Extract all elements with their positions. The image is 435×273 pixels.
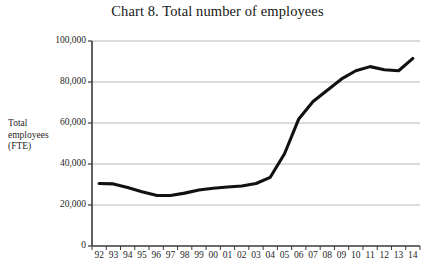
- y-tick-label: 20,000: [30, 199, 86, 209]
- x-tick-label: 14: [404, 250, 422, 260]
- y-tick-label: 80,000: [30, 76, 86, 86]
- chart-page: Chart 8. Total number of employees Total…: [0, 0, 435, 273]
- y-tick-label: 60,000: [30, 117, 86, 127]
- y-tick-label: 0: [30, 240, 86, 250]
- employees-data-line: [99, 58, 413, 195]
- y-tick-label: 40,000: [30, 158, 86, 168]
- y-tick-label: 100,000: [30, 35, 86, 45]
